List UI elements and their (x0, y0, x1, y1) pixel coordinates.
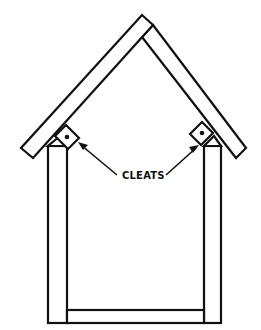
left-cleat-screw-icon (65, 135, 70, 140)
left-arrow-line (81, 145, 117, 175)
house-frame-diagram (0, 0, 261, 330)
left-side-post (48, 146, 67, 323)
left-roof-board (21, 15, 153, 158)
right-arrow-head-icon (189, 145, 199, 153)
right-cleat-screw-icon (200, 131, 205, 136)
right-side-post (204, 146, 221, 323)
right-arrow-line (166, 148, 196, 175)
bottom-board (67, 310, 204, 323)
cleats-label: CLEATS (122, 170, 165, 181)
